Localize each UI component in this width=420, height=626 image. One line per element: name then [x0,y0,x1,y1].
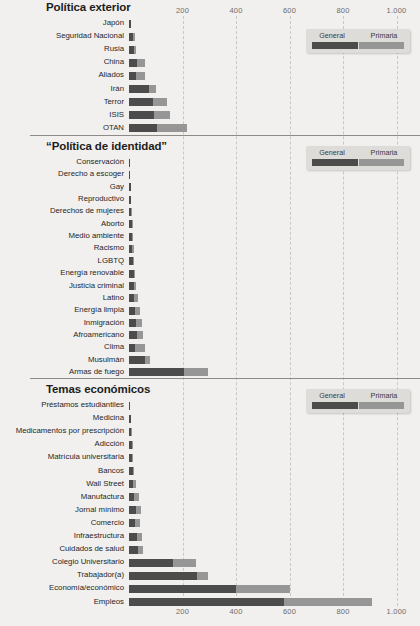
bar-segment-primaria [153,98,167,106]
bar-segment-general [129,533,137,541]
axis-tick-label: 600 [283,607,296,616]
bar-segment-general [129,559,173,567]
bar-row-label: Energía renovable [0,268,124,278]
bar-segment-primaria [138,546,144,554]
bar-row: Energía limpia [0,304,420,317]
bar-segment-general [129,319,136,327]
bar-segment-primaria [154,111,170,119]
bar-row-label: Adicción [0,439,124,449]
bar-row-label: Derecho a escoger [0,169,124,179]
bar-row-label: Armas de fuego [0,367,124,377]
bar-row-label: Energía limpia [0,305,124,315]
stacked-bar [129,572,208,580]
stacked-bar [129,480,136,488]
bar-segment-primaria [137,533,142,541]
bar-segment-primaria [149,85,156,93]
stacked-bar [129,441,132,449]
bar-row-label: Justicia criminal [0,281,124,291]
bar-row: Wall Street [0,478,420,491]
bar-segment-primaria [135,307,140,315]
stacked-bar [129,493,139,501]
bar-row: Energía renovable [0,267,420,280]
stacked-bar [129,183,131,191]
bar-segment-general [129,572,197,580]
bar-segment-primaria [134,282,136,290]
bar-segment-primaria [136,506,140,514]
bar-row: Aliados [0,69,420,82]
bar-segment-primaria [136,319,142,327]
stacked-bar [129,171,130,179]
bar-row-label: Afroamericano [0,330,124,340]
bar-row-label: Medicina [0,413,124,423]
stacked-bar [129,519,140,527]
bar-row: OTAN [0,122,420,135]
section-divider-1 [30,135,420,136]
bar-row: Préstamos estudiantiles [0,399,420,412]
bar-row: Inmigración [0,317,420,330]
bar-row-label: Comercio [0,518,124,528]
stacked-bar [129,585,290,593]
section-title-economic-issues: Temas económicos [46,383,150,395]
bar-segment-primaria [133,467,134,475]
bar-segment-primaria [134,46,136,54]
bar-segment-general [129,415,131,423]
bar-row: Terror [0,96,420,109]
bar-segment-primaria [136,72,144,80]
bar-segment-general [129,85,149,93]
bar-row: Aborto [0,218,420,231]
bar-row: Medicina [0,412,420,425]
bar-segment-primaria [197,572,208,580]
bar-row: Japón [0,17,420,30]
bar-segment-primaria [157,124,187,132]
bar-segment-general [129,72,136,80]
bar-segment-primaria [135,519,139,527]
bar-row-label: Colegio Universitario [0,557,124,567]
stacked-bar [129,428,132,436]
bar-segment-primaria [132,245,133,253]
axis-tick-label: 200 [176,607,189,616]
bar-row: Seguridad Nacional [0,30,420,43]
bar-segment-general [129,20,131,28]
bar-row-label: Musulmán [0,355,124,365]
axis-tick-label: 200 [176,6,189,15]
stacked-bar [129,546,143,554]
issue-mentions-stacked-bar-chart: 2004006008001.000 Política exterior Gene… [0,0,420,626]
bar-row-label: Japón [0,18,124,28]
bar-row-label: Latino [0,293,124,303]
bar-row: Gay [0,181,420,194]
bar-row-label: China [0,57,124,67]
stacked-bar [129,282,136,290]
axis-tick-label: 800 [336,607,349,616]
bar-segment-primaria [133,33,136,41]
bar-row-label: ISIS [0,110,124,120]
stacked-bar [129,294,138,302]
bar-segment-primaria [284,598,372,606]
bar-row: Trabajador(a) [0,569,420,582]
bar-row: Conservación [0,156,420,169]
bar-row: Medio ambiente [0,230,420,243]
bar-row: Colegio Universitario [0,556,420,569]
bar-segment-primaria [134,294,138,302]
bar-segment-general [129,356,145,364]
bar-row-label: LGBTQ [0,256,124,266]
bar-row-label: Racismo [0,243,124,253]
bar-row: Cuidados de salud [0,543,420,556]
bar-row-label: Empleos [0,597,124,607]
stacked-bar [129,72,145,80]
bar-segment-general [129,98,153,106]
stacked-bar [129,467,134,475]
stacked-bar [129,331,143,339]
stacked-bar [129,33,135,41]
bar-segment-primaria [133,480,136,488]
stacked-bar [129,233,132,241]
bar-segment-general [129,506,136,514]
bar-row-label: Cuidados de salud [0,544,124,554]
stacked-bar [129,344,145,352]
axis-tick-label: 1.000 [387,607,407,616]
bar-segment-primaria [236,585,290,593]
bar-row-label: Aliados [0,70,124,80]
bar-row-label: Terror [0,97,124,107]
stacked-bar [129,559,196,567]
stacked-bar [129,257,134,265]
bar-row-label: Wall Street [0,479,124,489]
